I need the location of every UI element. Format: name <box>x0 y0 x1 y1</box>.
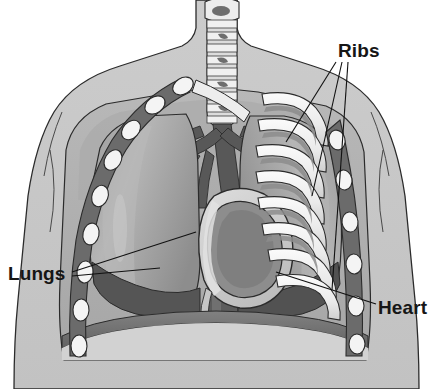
label-lungs: Lungs <box>8 263 66 284</box>
label-ribs-text: Ribs <box>338 40 380 61</box>
label-heart: Heart <box>378 297 428 318</box>
label-heart-text: Heart <box>378 297 428 318</box>
label-lungs-text: Lungs <box>8 263 66 284</box>
label-ribs: Ribs <box>338 40 380 61</box>
anatomy-figure: Ribs Lungs Heart <box>0 0 433 389</box>
anatomy-illustration: Ribs Lungs Heart <box>0 0 433 389</box>
